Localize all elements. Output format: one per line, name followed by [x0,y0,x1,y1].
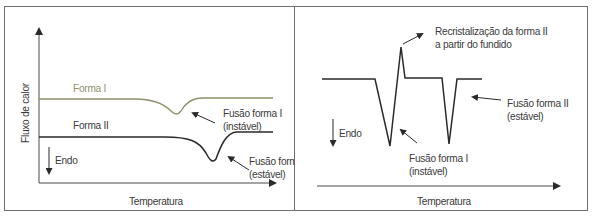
annotation-arrow-icon [401,130,417,143]
left-dsc-panel: Fluxo de calor Forma I Forma II Endo Fus… [4,6,294,211]
endo-label: Endo [339,127,362,140]
annotation-arrow-icon [473,97,501,100]
fusion-forma-ii-annotation-line2: (estável) [507,110,543,123]
forma-i-label: Forma I [73,82,106,95]
endo-label: Endo [55,154,78,167]
right-dsc-panel: Recristalização da forma II a partir do … [294,6,588,211]
fusion-forma-i-annotation-line2: (instável) [409,165,447,178]
annotation-arrow-icon [229,157,249,170]
fusion-forma-i-annotation-line2: (instável) [223,120,261,133]
annotation-arrow-icon [403,34,422,44]
fusion-forma-ii-annotation-line2: (estável) [249,168,285,181]
x-axis-label: Temperatura [129,195,183,208]
recrystallization-annotation-line1: Recristalização da forma II [435,25,548,38]
fusion-forma-i-annotation-line1: Fusão forma I [223,107,282,120]
fusion-forma-i-annotation-line1: Fusão forma I [409,152,468,165]
forma-ii-label: Forma II [73,119,109,132]
fusion-forma-ii-annotation-line1: Fusão forma II [507,97,569,110]
y-axis-label: Fluxo de calor [19,83,31,143]
x-axis-label: Temperatura [417,195,471,208]
recrystallization-annotation-line2: a partir do fundido [435,38,512,51]
annotation-arrow-icon [193,113,215,123]
